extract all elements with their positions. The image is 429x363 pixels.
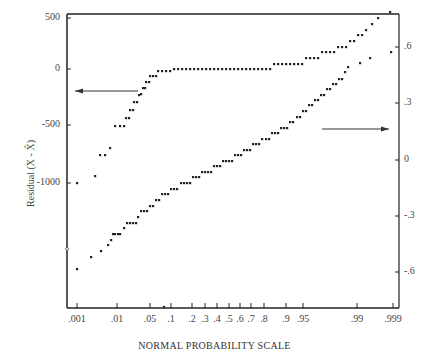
x-tick-label: .01: [107, 313, 127, 324]
right-tick-label: -.6: [404, 265, 415, 276]
x-tick-label: .999: [383, 313, 403, 324]
left-tick-label: 500: [45, 11, 60, 22]
x-axis-title: NORMAL PROBABILITY SCALE: [0, 340, 429, 351]
right-tick-label: .6: [404, 40, 412, 51]
left-tick-label: 0: [55, 62, 60, 73]
y-axis-title-left: Residual (X - X̂): [25, 114, 36, 234]
x-tick-label: .8: [254, 313, 274, 324]
left-tick-label: -500: [42, 118, 60, 129]
series-right-residuals: [76, 51, 392, 270]
axis-pointer-arrows: [75, 89, 389, 132]
right-tick-label: -.3: [404, 209, 415, 220]
left-tick-label: -1000: [37, 176, 60, 187]
right-tick-label: .3: [404, 96, 412, 107]
series-left-residuals: [76, 11, 391, 184]
x-tick-label: .001: [67, 313, 87, 324]
right-tick-label: 0: [404, 153, 409, 164]
x-tick-label: .1: [161, 313, 181, 324]
x-tick-label: .05: [140, 313, 160, 324]
chart-canvas: [0, 0, 429, 363]
x-tick-label: .99: [347, 313, 367, 324]
x-tick-label: .95: [293, 313, 313, 324]
